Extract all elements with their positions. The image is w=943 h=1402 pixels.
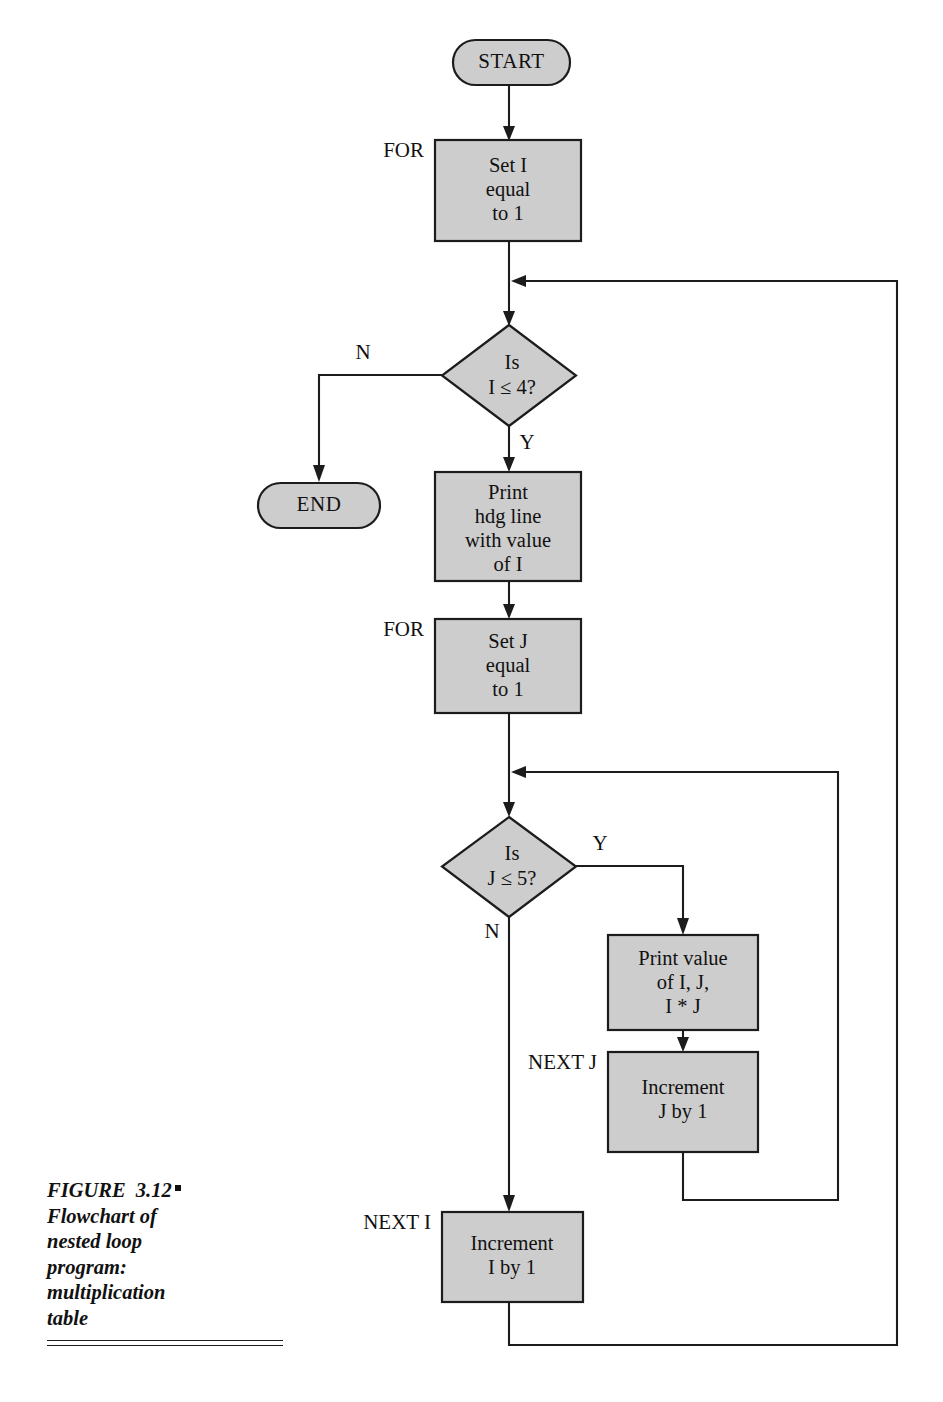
label-next-j: NEXT J (528, 1050, 597, 1074)
caption-divider-rule (47, 1340, 283, 1346)
node-decide-j-line-1: Is (505, 842, 520, 864)
edge-decide-j-yes-to-print-value (576, 866, 689, 935)
label-for-j: FOR (383, 617, 424, 641)
node-end-label: END (297, 492, 342, 516)
node-print-value-line-2: of I, J, (657, 971, 709, 993)
node-print-hdg-line-3: with value (465, 529, 551, 551)
edge-decide-i-no-to-end (313, 375, 442, 482)
edge-decide-j-no-to-increment-i (503, 917, 515, 1212)
node-start[interactable]: START (453, 40, 570, 85)
label-for-i: FOR (383, 138, 424, 162)
edge-print-hdg-to-set-j (503, 581, 515, 619)
figure-caption-line-3: program: (47, 1255, 297, 1281)
node-print-value-line-3: I * J (665, 995, 700, 1017)
node-set-j-line-1: Set J (488, 630, 527, 652)
label-next-i: NEXT I (363, 1210, 431, 1234)
edge-print-value-to-increment-j (677, 1030, 689, 1052)
node-print-value-line-1: Print value (638, 947, 727, 969)
node-print-hdg-line-4: of I (493, 553, 522, 575)
node-increment-i-line-1: Increment (470, 1232, 553, 1254)
figure-caption-number: FIGURE 3.12 (47, 1179, 172, 1201)
node-end[interactable]: END (258, 483, 380, 528)
figure-caption-line-5: table (47, 1306, 297, 1332)
node-decide-j[interactable]: Is J ≤ 5? (442, 817, 576, 917)
edge-set-j-to-decide-j (503, 713, 515, 817)
label-decide-j-no: N (484, 919, 499, 943)
figure-caption-line-1: Flowchart of (47, 1204, 297, 1230)
node-set-i-line-3: to 1 (492, 202, 523, 224)
node-decide-i[interactable]: Is I ≤ 4? (442, 325, 576, 426)
node-increment-i-line-2: I by 1 (488, 1256, 536, 1279)
node-set-i-line-2: equal (486, 178, 531, 201)
label-decide-i-yes: Y (519, 430, 534, 454)
node-increment-i[interactable]: Increment I by 1 (442, 1212, 583, 1302)
node-decide-i-line-2: I ≤ 4? (488, 376, 536, 398)
figure-container: START Set I equal to 1 FOR Is I ≤ 4? N Y… (0, 0, 943, 1402)
node-increment-j-line-1: Increment (641, 1076, 724, 1098)
edge-decide-i-yes-to-print-hdg (503, 426, 515, 472)
node-decide-i-line-1: Is (505, 351, 520, 373)
node-print-hdg-line-2: hdg line (475, 505, 542, 528)
figure-caption-line-4: multiplication (47, 1280, 297, 1306)
node-print-hdg[interactable]: Print hdg line with value of I (435, 472, 581, 581)
node-print-hdg-line-1: Print (488, 481, 528, 503)
square-bullet-icon (175, 1185, 181, 1191)
node-set-i[interactable]: Set I equal to 1 (435, 140, 581, 241)
figure-caption-number-line: FIGURE 3.12 (47, 1178, 297, 1204)
node-decide-j-line-2: J ≤ 5? (488, 867, 537, 889)
node-set-i-line-1: Set I (489, 154, 527, 176)
figure-caption-line-2: nested loop (47, 1229, 297, 1255)
edge-set-i-to-decide-i (503, 241, 515, 326)
node-start-label: START (478, 49, 545, 73)
figure-caption: FIGURE 3.12 Flowchart of nested loop pro… (47, 1178, 297, 1346)
node-set-j[interactable]: Set J equal to 1 (435, 619, 581, 713)
edge-start-to-set-i (503, 85, 515, 141)
node-increment-j-line-2: J by 1 (659, 1100, 708, 1123)
label-decide-j-yes: Y (592, 831, 607, 855)
node-print-value[interactable]: Print value of I, J, I * J (608, 935, 758, 1030)
label-decide-i-no: N (355, 340, 370, 364)
node-set-j-line-3: to 1 (492, 678, 523, 700)
node-set-j-line-2: equal (486, 654, 531, 677)
node-increment-j[interactable]: Increment J by 1 (608, 1052, 758, 1152)
